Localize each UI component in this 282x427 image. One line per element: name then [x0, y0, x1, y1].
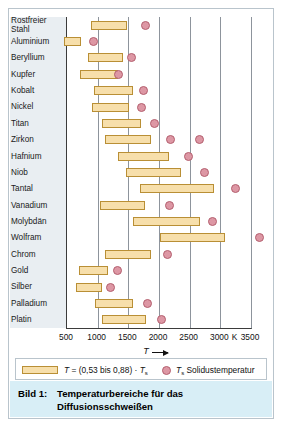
category-label: Titan	[11, 119, 65, 128]
category-label: Palladium	[11, 299, 65, 308]
category-label: Tantal	[11, 184, 65, 193]
solidus-marker	[255, 233, 264, 242]
range-bar	[95, 299, 134, 308]
category-label: Beryllium	[11, 53, 65, 62]
category-label: Platin	[11, 315, 65, 324]
solidus-marker	[127, 53, 136, 62]
gridline-2500	[190, 17, 191, 328]
solidus-marker	[143, 299, 152, 308]
solidus-marker	[114, 70, 123, 79]
range-bar	[102, 315, 146, 324]
range-bar	[94, 86, 133, 95]
axis-tick-1000: 1000	[87, 332, 106, 342]
gridline-3000	[220, 17, 221, 328]
axis-tick-1500: 1500	[118, 332, 137, 342]
axis-tick-3500: 3500	[241, 332, 260, 342]
solidus-marker	[184, 152, 193, 161]
range-bar	[80, 70, 117, 79]
legend-range-label: T = (0,53 bis 0,88) · Ts	[64, 365, 148, 376]
axis-tick-2000: 2000	[149, 332, 168, 342]
category-label: Kobalt	[11, 86, 65, 95]
range-bar	[126, 168, 181, 177]
range-bar	[118, 152, 169, 161]
range-bar	[140, 184, 215, 193]
axis-tick-3000: 3000	[210, 332, 229, 342]
solidus-marker	[165, 201, 174, 210]
gridline-1000	[98, 17, 99, 328]
caption-label: Bild 1:	[18, 388, 47, 399]
category-label: Silber	[11, 282, 65, 291]
solidus-marker	[141, 21, 150, 30]
range-bar	[105, 250, 151, 259]
axis-title: T	[143, 346, 149, 356]
category-label: Zirkon	[11, 135, 65, 144]
legend-bar-swatch	[22, 366, 58, 374]
range-bar	[88, 53, 123, 62]
range-bar	[91, 21, 128, 30]
solidus-marker	[163, 250, 172, 259]
gridline-3500	[251, 17, 252, 328]
category-label: Wolfram	[11, 233, 65, 242]
category-label: Aluminium	[11, 37, 65, 46]
category-label: Hafnium	[11, 152, 65, 161]
axis-unit-label: K	[232, 332, 238, 342]
solidus-marker	[195, 135, 204, 144]
legend-solidus-label: Ts Solidustemperatur	[176, 365, 254, 376]
range-bar	[100, 201, 145, 210]
figure-caption: Bild 1: Temperaturbereiche für das Diffu…	[10, 381, 272, 417]
legend-solidus-swatch	[162, 366, 171, 375]
chart-area: Rostfreier StahlAluminiumBerylliumKupfer…	[9, 9, 275, 358]
category-label: Gold	[11, 266, 65, 275]
range-bar	[76, 283, 102, 292]
solidus-marker	[137, 103, 146, 112]
solidus-marker	[157, 315, 166, 324]
category-label: Molybdän	[11, 217, 65, 226]
range-bar	[79, 266, 108, 275]
category-label: Niob	[11, 168, 65, 177]
range-bar	[92, 103, 128, 112]
range-bar	[64, 37, 81, 46]
axis-tick-2500: 2500	[179, 332, 198, 342]
legend: T = (0,53 bis 0,88) · Ts Ts Solidustempe…	[15, 358, 267, 380]
range-bar	[133, 217, 200, 226]
range-bar	[105, 135, 150, 144]
figure-container: Rostfreier StahlAluminiumBerylliumKupfer…	[8, 8, 274, 419]
category-label: Chrom	[11, 250, 65, 259]
category-label: Kupfer	[11, 70, 65, 79]
axis-tick-500: 500	[59, 332, 73, 342]
caption-text: Temperaturbereiche für das Diffusionssch…	[57, 388, 266, 413]
range-bar	[160, 233, 226, 242]
category-label: Rostfreier Stahl	[11, 16, 65, 34]
solidus-marker	[106, 283, 115, 292]
range-bar	[102, 119, 141, 128]
axis-arrow-icon	[152, 352, 168, 353]
category-label: Vanadium	[11, 201, 65, 210]
category-label: Nickel	[11, 102, 65, 111]
